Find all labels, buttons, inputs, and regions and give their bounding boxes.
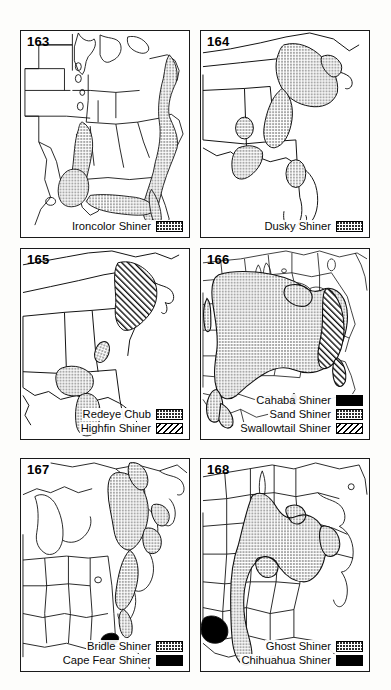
map-163 — [21, 31, 189, 237]
panel-number: 165 — [27, 252, 50, 267]
legend-label: Ironcolor Shiner — [72, 220, 151, 233]
legend-165: Redeye Chub Highfin Shiner — [80, 408, 184, 435]
legend-swatch-stipple — [336, 409, 363, 420]
legend-swatch-solid — [156, 655, 183, 666]
legend-168: Ghost Shiner Chihuahua Shiner — [240, 640, 364, 667]
panel-number: 163 — [27, 34, 50, 49]
legend-swatch-stipple — [336, 221, 363, 232]
map-panel-167: 167 Bridle Shiner Cape Fear Shiner — [20, 458, 190, 672]
map-163-svg — [21, 31, 189, 237]
panel-number: 167 — [27, 462, 50, 477]
legend-166: Cahaba Shiner Sand Shiner Swallowtail Sh… — [239, 394, 364, 435]
legend-label: Cape Fear Shiner — [63, 654, 151, 667]
panel-number: 166 — [207, 252, 230, 267]
legend-label: Redeye Chub — [83, 408, 151, 421]
map-164-svg — [201, 31, 369, 237]
legend-item: Cape Fear Shiner — [62, 654, 184, 667]
legend-swatch-solid — [336, 655, 363, 666]
legend-label: Sand Shiner — [269, 408, 331, 421]
legend-164: Dusky Shiner — [263, 220, 364, 233]
map-164 — [201, 31, 369, 237]
legend-item: Redeye Chub — [82, 408, 184, 421]
legend-label: Swallowtail Shiner — [240, 422, 331, 435]
map-panel-165: 165 Redeye Chub Highfin Shiner — [20, 248, 190, 440]
panel-number: 168 — [207, 462, 230, 477]
legend-swatch-stipple — [156, 221, 183, 232]
legend-label: Highfin Shiner — [81, 422, 151, 435]
legend-label: Dusky Shiner — [264, 220, 331, 233]
legend-item: Sand Shiner — [268, 408, 364, 421]
legend-item: Swallowtail Shiner — [239, 422, 364, 435]
legend-item: Bridle Shiner — [86, 640, 184, 653]
legend-swatch-stipple — [156, 409, 183, 420]
legend-163: Ironcolor Shiner — [71, 220, 184, 233]
legend-swatch-stipple — [336, 641, 363, 652]
legend-item: Chihuahua Shiner — [240, 654, 364, 667]
legend-item: Ironcolor Shiner — [71, 220, 184, 233]
map-panel-163: 163 Ironcolor Shiner — [20, 30, 190, 238]
panel-grid: 163 Ironcolor Shiner — [0, 0, 391, 690]
legend-swatch-hatch — [336, 423, 363, 434]
legend-label: Cahaba Shiner — [256, 394, 331, 407]
panel-number: 164 — [207, 34, 230, 49]
legend-item: Cahaba Shiner — [255, 394, 364, 407]
figure-page: 163 Ironcolor Shiner — [0, 0, 391, 690]
legend-label: Chihuahua Shiner — [241, 654, 331, 667]
legend-swatch-solid — [336, 395, 363, 406]
legend-167: Bridle Shiner Cape Fear Shiner — [62, 640, 184, 667]
legend-label: Ghost Shiner — [266, 640, 331, 653]
legend-swatch-hatch — [156, 423, 183, 434]
legend-item: Highfin Shiner — [80, 422, 184, 435]
legend-swatch-stipple — [156, 641, 183, 652]
legend-item: Ghost Shiner — [265, 640, 364, 653]
legend-label: Bridle Shiner — [87, 640, 151, 653]
map-panel-164: 164 Dusky Shiner — [200, 30, 370, 238]
map-panel-166: 166 Cahaba Shiner Sand Shiner Swallowtai… — [200, 248, 370, 440]
map-panel-168: 168 Ghost Shiner Chihuahua Shiner — [200, 458, 370, 672]
legend-item: Dusky Shiner — [263, 220, 364, 233]
